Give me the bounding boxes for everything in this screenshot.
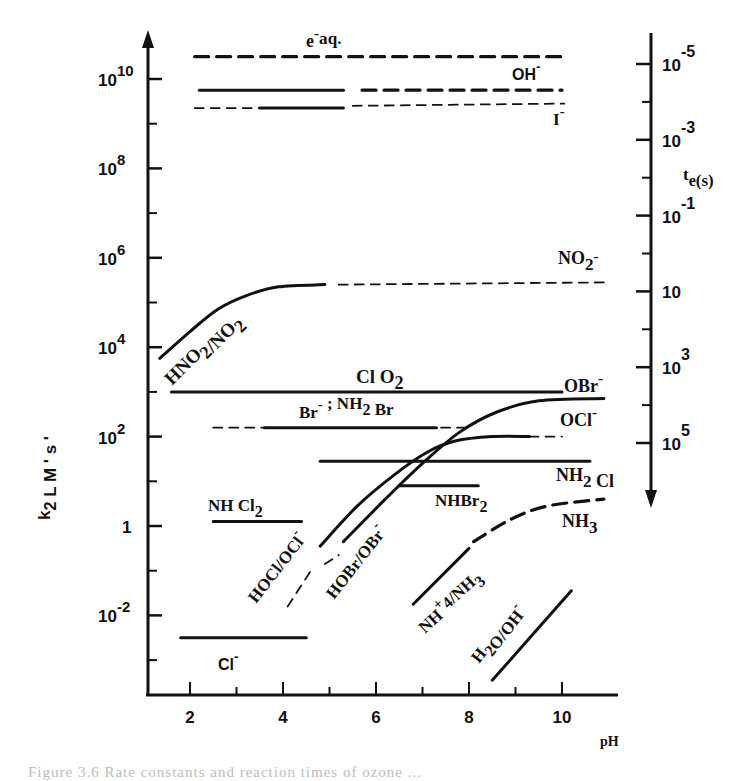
label-cl: Cl- — [218, 649, 239, 673]
label-nhbr2: NHBr2 — [435, 491, 487, 515]
x-axis: 246810 — [146, 682, 618, 727]
label-obr: OBr- — [564, 369, 603, 396]
label-br-nh2br: Br- ; NH2 Br — [299, 394, 394, 422]
y-tick-label: 104 — [98, 330, 126, 358]
y-axis-right: 10-510-310-110103105 — [636, 33, 695, 508]
y2-tick-label: 10 — [662, 283, 681, 302]
figure-caption: Figure 3.6 Rate constants and reaction t… — [28, 764, 422, 781]
y-tick-label: 108 — [98, 151, 125, 179]
label-nh2cl: NH2 Cl — [556, 465, 614, 491]
label-h2o-oh: H2O/OH- — [466, 598, 530, 670]
y-tick-label: 102 — [98, 420, 125, 448]
series-i- — [195, 104, 565, 108]
label-nhcl2: NH Cl2 — [208, 496, 263, 520]
y-axis-title: k2 L M ' s ' — [35, 436, 60, 520]
label-oh: OH- — [512, 59, 541, 83]
label-nh3: NH3 — [562, 511, 598, 537]
label-e-aq: e-aq. — [306, 24, 341, 51]
label-hocl-ocl: HOCl/OCl- — [239, 525, 311, 607]
x-tick-label: 8 — [464, 708, 473, 727]
x-tick-label: 4 — [278, 708, 288, 727]
label-ocl: OCl- — [560, 403, 597, 430]
x-axis-title: pH — [600, 734, 619, 749]
y2-tick-label: 103 — [662, 346, 690, 378]
y-axis-arrow-icon — [142, 30, 154, 48]
y2-axis-arrow-icon — [645, 490, 657, 508]
label-no2: NO2- — [558, 247, 599, 274]
y-tick-label: 10-2 — [98, 598, 130, 626]
y2-tick-label: 105 — [662, 422, 690, 454]
y2-tick-label: 10-3 — [662, 119, 695, 151]
label-clo2: Cl O2 — [356, 366, 404, 393]
y-tick-label: 106 — [98, 241, 125, 269]
y-tick-label: 1010 — [98, 62, 134, 90]
inline-labels: e-aq.OH-I-NO2-HNO2/NO2Cl O2Br- ; NH2 BrO… — [35, 24, 714, 749]
y-tick-label: 1 — [122, 518, 131, 537]
y2-axis-title: te(s) — [683, 165, 714, 190]
x-tick-label: 10 — [553, 708, 572, 727]
y-axis-left: 1010108106104102110-2 — [98, 30, 162, 695]
x-tick-label: 6 — [371, 708, 380, 727]
y2-tick-label: 10-1 — [662, 195, 695, 227]
x-tick-label: 2 — [185, 708, 194, 727]
label-nh4-nh3: NH+4/NH3 — [410, 564, 488, 638]
y2-tick-label: 10-5 — [662, 43, 695, 75]
label-i: I- — [553, 103, 565, 129]
